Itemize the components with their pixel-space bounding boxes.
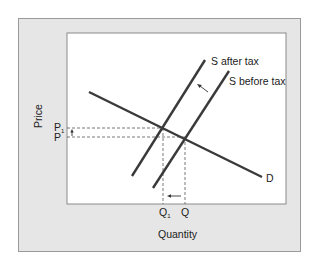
demand-label: D [266, 172, 274, 184]
q1-tick-label: Q1 [159, 206, 171, 219]
s-after-tax-label: S after tax [211, 55, 260, 67]
supply-demand-chart: S after tax S before tax D P1 P Q1 Q Qua… [0, 0, 309, 263]
x-axis-title: Quantity [158, 228, 198, 240]
y-axis-title: Price [32, 104, 44, 128]
p-tick-label: P [54, 131, 61, 143]
q-tick-label: Q [181, 206, 189, 218]
s-before-tax-label: S before tax [229, 75, 286, 87]
